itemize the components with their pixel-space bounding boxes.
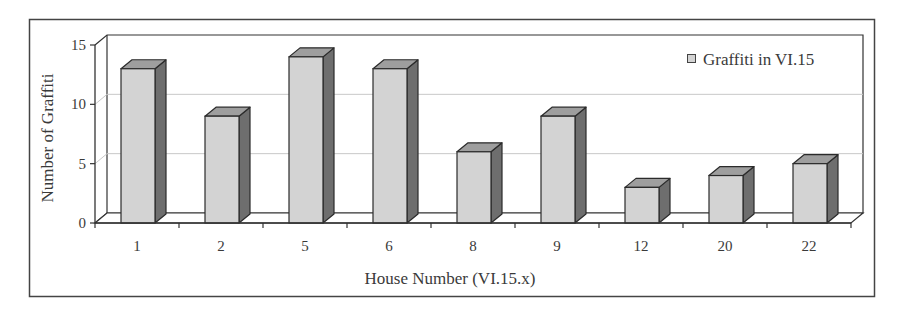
bar <box>373 60 418 223</box>
x-tick-label: 12 <box>634 238 649 254</box>
bar <box>709 167 754 223</box>
legend: Graffiti in VI.15 <box>688 50 815 69</box>
bar <box>205 107 250 223</box>
legend-label: Graffiti in VI.15 <box>703 50 814 69</box>
y-axis-title: Number of Graffiti <box>38 73 57 202</box>
x-tick-label: 9 <box>553 238 561 254</box>
bar <box>793 155 838 223</box>
x-tick-label: 2 <box>217 238 225 254</box>
bar <box>457 143 502 223</box>
y-tick-label: 10 <box>71 96 86 112</box>
x-axis-title: House Number (VI.15.x) <box>365 269 536 288</box>
x-tick-label: 8 <box>469 238 477 254</box>
chart-container: 051015125689122022 Number of Graffiti Ho… <box>0 0 900 319</box>
x-tick-label: 20 <box>718 238 733 254</box>
y-tick-label: 5 <box>79 156 87 172</box>
bar <box>121 60 166 223</box>
bar-chart: 051015125689122022 Number of Graffiti Ho… <box>0 0 900 319</box>
y-tick-label: 0 <box>79 215 87 231</box>
y-tick-label: 15 <box>71 37 86 53</box>
x-tick-label: 5 <box>301 238 309 254</box>
bar <box>541 107 586 223</box>
x-tick-label: 22 <box>802 238 817 254</box>
bar <box>289 48 334 223</box>
x-tick-label: 6 <box>385 238 393 254</box>
x-tick-label: 1 <box>133 238 141 254</box>
legend-marker-icon <box>688 55 696 63</box>
bar <box>625 178 670 223</box>
